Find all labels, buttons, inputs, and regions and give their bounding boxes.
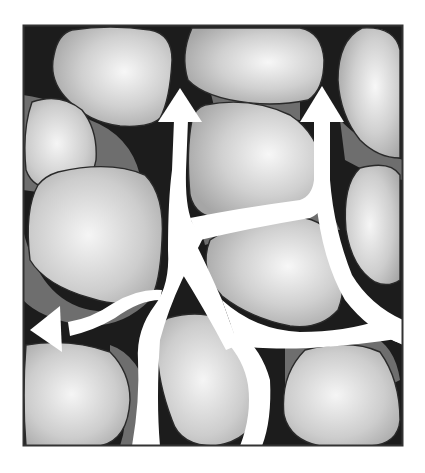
grain-bottom-right (283, 344, 400, 446)
diagram-svg (0, 0, 425, 473)
grain-top-center (185, 28, 324, 104)
pore-flow-diagram: Cross-section of packed grains with pore… (0, 0, 425, 473)
grain-bottom-left (24, 343, 130, 446)
